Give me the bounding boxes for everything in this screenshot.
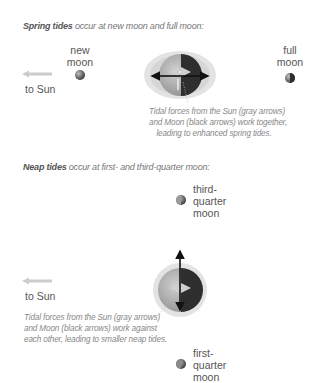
neap-caption: Tidal forces from the Sun (gray arrows) … [24, 312, 167, 345]
spring-caption-line: leading to enhanced spring tides. [149, 128, 279, 139]
spring-earth-icon [144, 51, 216, 103]
third-quarter-label-line: third- [193, 183, 226, 195]
spring-to-sun-label: to Sun [25, 83, 55, 95]
full-moon-icon [285, 73, 295, 83]
neap-caption-line: Tidal forces from the Sun (gray arrows) [24, 312, 167, 323]
neap-caption-line: each other, leading to smaller neap tide… [24, 334, 167, 345]
new-moon-label-line: moon [60, 56, 100, 68]
first-quarter-label-line: quarter [193, 359, 226, 371]
first-quarter-moon-label: first- quarter moon [193, 347, 226, 383]
new-moon-label: new moon [60, 44, 100, 68]
neap-caption-line: and Moon (black arrows) work against [24, 323, 167, 334]
first-quarter-label-line: first- [193, 347, 226, 359]
spring-caption-line: Tidal forces from the Sun (gray arrows) [149, 106, 279, 117]
new-moon-label-line: new [60, 44, 100, 56]
spring-tides-heading: Spring tides occur at new moon and full … [23, 21, 204, 31]
neap-tides-heading: Neap tides occur at first- and third-qua… [23, 162, 210, 172]
new-moon-icon [75, 70, 85, 80]
third-quarter-label-line: quarter [193, 195, 226, 207]
third-quarter-moon-icon [176, 195, 186, 205]
spring-tides-description: occur at new moon and full moon: [73, 21, 204, 31]
spring-caption-line: and Moon (black arrows) work together, [149, 117, 279, 128]
first-quarter-label-line: moon [193, 371, 226, 383]
full-moon-label-line: full [272, 44, 308, 56]
third-quarter-moon-label: third- quarter moon [193, 183, 226, 219]
full-moon-label-line: moon [272, 56, 308, 68]
spring-tides-term: Spring tides [23, 21, 73, 31]
first-quarter-moon-icon [176, 359, 186, 369]
third-quarter-label-line: moon [193, 207, 226, 219]
neap-sun-direction-arrow-icon [22, 278, 52, 285]
spring-caption: Tidal forces from the Sun (gray arrows) … [149, 106, 279, 139]
neap-to-sun-label: to Sun [25, 290, 55, 302]
neap-tides-description: occur at first- and third-quarter moon: [67, 162, 210, 172]
spring-sun-direction-arrow-icon [22, 71, 52, 78]
full-moon-label: full moon [272, 44, 308, 68]
neap-tides-term: Neap tides [23, 162, 67, 172]
